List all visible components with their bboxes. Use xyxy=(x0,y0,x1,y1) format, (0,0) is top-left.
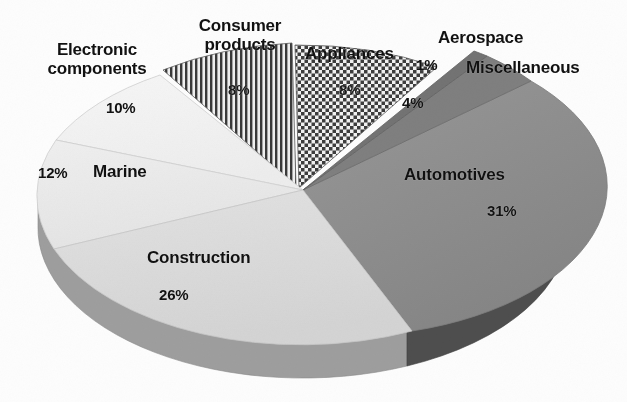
pie-chart: Electronic components 10% Consumer produ… xyxy=(0,0,627,402)
value-appliances: 8% xyxy=(339,82,360,99)
value-miscellaneous: 4% xyxy=(402,95,423,112)
label-construction: Construction xyxy=(147,248,250,267)
label-electronic-components: Electronic components xyxy=(22,40,172,78)
value-aerospace: 1% xyxy=(416,57,437,74)
label-miscellaneous: Miscellaneous xyxy=(466,58,580,77)
label-aerospace: Aerospace xyxy=(438,28,523,47)
label-consumer-products: Consumer products xyxy=(178,16,302,54)
label-marine: Marine xyxy=(93,162,147,181)
label-electronic-line1: Electronic xyxy=(57,40,137,59)
value-marine: 12% xyxy=(38,165,67,182)
label-consumer-line2: products xyxy=(204,35,275,54)
label-electronic-line2: components xyxy=(47,59,146,78)
value-construction: 26% xyxy=(159,287,188,304)
value-electronic-components: 10% xyxy=(106,100,135,117)
label-automotives: Automotives xyxy=(404,165,505,184)
value-automotives: 31% xyxy=(487,203,516,220)
label-consumer-line1: Consumer xyxy=(199,16,281,35)
label-appliances: Appliances xyxy=(305,44,394,63)
value-consumer-products: 8% xyxy=(228,82,249,99)
